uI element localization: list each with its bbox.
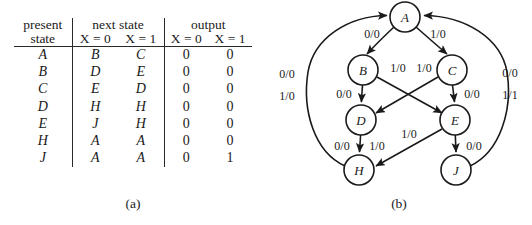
node-E-label: E [450, 113, 459, 128]
node-C[interactable]: C [437, 55, 467, 85]
header-next-x1: X = 1 [118, 32, 164, 46]
cell-next-state-x1: A [118, 150, 164, 167]
edge-label-E-to-H: 1/0 [401, 127, 416, 141]
caption-b: (b) [266, 196, 532, 212]
node-E[interactable]: E [440, 105, 470, 135]
cell-output-x0: 0 [164, 115, 208, 132]
edge-label-H-to-A-0: 0/0 [279, 67, 294, 81]
header-output-x1: X = 1 [208, 32, 252, 46]
table-row: C E D 0 0 [14, 81, 252, 98]
cell-next-state-x1: C [118, 46, 164, 64]
state-diagram: A B C D E H J 0/0 1/0 1/0 1/0 0 [266, 0, 532, 195]
header-present-state-line2: state [14, 32, 72, 46]
edge-B-to-D [361, 85, 362, 102]
cell-next-state-x0: B [72, 46, 118, 64]
cell-present-state: C [14, 81, 72, 98]
cell-next-state-x1: A [118, 132, 164, 149]
table-row: J A A 0 1 [14, 150, 252, 167]
header-next-x0: X = 0 [72, 32, 118, 46]
cell-output-x0: 0 [164, 46, 208, 64]
table-row: E J H 0 0 [14, 115, 252, 132]
table-row: H A A 0 0 [14, 132, 252, 149]
edge-label-D-to-H-1: 1/0 [369, 139, 384, 153]
cell-present-state: A [14, 46, 72, 64]
edge-label-J-to-A-1: 1/1 [502, 88, 517, 102]
cell-output-x0: 0 [164, 81, 208, 98]
cell-next-state-x1: D [118, 81, 164, 98]
cell-next-state-x1: H [118, 98, 164, 115]
node-D-label: D [355, 113, 366, 128]
cell-present-state: D [14, 98, 72, 115]
cell-output-x1: 0 [208, 115, 252, 132]
node-J[interactable]: J [441, 155, 471, 185]
cell-output-x1: 0 [208, 132, 252, 149]
cell-output-x0: 0 [164, 64, 208, 81]
state-table-container: present next state output state X = 0 X … [14, 18, 252, 188]
table-row: A B C 0 0 [14, 46, 252, 64]
cell-output-x1: 0 [208, 98, 252, 115]
cell-next-state-x0: H [72, 98, 118, 115]
header-next-state: next state [72, 18, 164, 32]
cell-output-x0: 0 [164, 132, 208, 149]
node-A[interactable]: A [390, 2, 420, 32]
cell-present-state: H [14, 132, 72, 149]
node-B-label: B [359, 63, 367, 78]
edge-label-C-to-E: 0/0 [464, 87, 479, 101]
table-row: D H H 0 0 [14, 98, 252, 115]
state-table: present next state output state X = 0 X … [14, 18, 252, 167]
cell-output-x1: 0 [208, 81, 252, 98]
edge-label-E-to-J: 0/0 [466, 139, 481, 153]
table-group-header-row: present next state output [14, 18, 252, 32]
table-row: B D E 0 0 [14, 64, 252, 81]
header-present-state-line1: present [14, 18, 72, 32]
edge-label-B-to-E: 1/0 [390, 61, 405, 75]
cell-output-x1: 1 [208, 150, 252, 167]
node-B[interactable]: B [348, 55, 378, 85]
table-sub-header-row: state X = 0 X = 1 X = 0 X = 1 [14, 32, 252, 46]
cell-present-state: B [14, 64, 72, 81]
cell-next-state-x0: D [72, 64, 118, 81]
edge-label-A-to-B: 0/0 [364, 27, 379, 41]
cell-next-state-x1: H [118, 115, 164, 132]
edge-E-to-J [455, 135, 456, 152]
edge-label-H-to-A-1: 1/0 [279, 89, 294, 103]
edge-label-C-to-D: 1/0 [416, 61, 431, 75]
cell-output-x1: 0 [208, 64, 252, 81]
header-output-x0: X = 0 [164, 32, 208, 46]
edge-label-A-to-C: 1/0 [430, 27, 445, 41]
node-A-label: A [400, 10, 409, 25]
cell-output-x0: 0 [164, 150, 208, 167]
edge-label-J-to-A-0: 0/0 [502, 66, 517, 80]
cell-output-x1: 0 [208, 46, 252, 64]
node-D[interactable]: D [346, 105, 376, 135]
cell-next-state-x0: J [72, 115, 118, 132]
caption-a: (a) [0, 196, 266, 212]
cell-next-state-x0: A [72, 132, 118, 149]
edge-D-to-H [360, 135, 361, 152]
edge-label-B-to-D: 0/0 [336, 87, 351, 101]
cell-present-state: J [14, 150, 72, 167]
node-H-label: H [353, 163, 364, 178]
figure-b-state-diagram: A B C D E H J 0/0 1/0 1/0 1/0 0 [266, 0, 532, 225]
table-body: A B C 0 0 B D E 0 0 C E D 0 [14, 46, 252, 167]
figure-a-state-table: present next state output state X = 0 X … [0, 0, 266, 225]
cell-next-state-x0: E [72, 81, 118, 98]
edge-label-D-to-H-0: 0/0 [334, 139, 349, 153]
header-output: output [164, 18, 252, 32]
edge-C-to-E [453, 85, 455, 102]
cell-next-state-x1: E [118, 64, 164, 81]
cell-present-state: E [14, 115, 72, 132]
cell-output-x0: 0 [164, 98, 208, 115]
cell-next-state-x0: A [72, 150, 118, 167]
node-H[interactable]: H [344, 155, 374, 185]
node-C-label: C [448, 63, 457, 78]
